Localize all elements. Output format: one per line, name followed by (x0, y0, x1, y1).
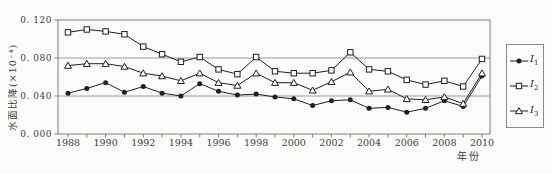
marker-I2 (84, 27, 89, 32)
x-tick-label: 2008 (428, 137, 460, 148)
marker-I3 (215, 79, 222, 85)
marker-I3 (479, 70, 486, 76)
marker-I1 (216, 89, 221, 94)
marker-I3 (328, 78, 335, 84)
marker-I2 (197, 54, 202, 59)
marker-I3 (196, 70, 203, 76)
marker-I2 (216, 67, 221, 72)
marker-I2 (442, 78, 447, 83)
x-tick-label: 1990 (90, 137, 122, 148)
marker-I1 (103, 80, 108, 85)
marker-I2 (460, 84, 465, 89)
x-tick-label: 1996 (203, 137, 235, 148)
marker-I1 (160, 91, 165, 96)
marker-I1 (254, 92, 259, 97)
marker-I1 (310, 103, 315, 108)
marker-I1 (385, 105, 390, 110)
marker-I1 (423, 106, 428, 111)
marker-I1 (291, 96, 296, 101)
marker-I2 (272, 69, 277, 74)
legend: I1I2I3 (506, 44, 544, 128)
open-triangle-icon (510, 106, 528, 116)
y-tick-label: 0. 040 (16, 91, 52, 101)
legend-label-I2: I2 (530, 79, 538, 92)
marker-I2 (291, 71, 296, 76)
x-tick-label: 2000 (278, 137, 310, 148)
x-tick-label: 2004 (353, 137, 385, 148)
marker-I3 (309, 87, 316, 93)
y-tick-label: 0. 120 (16, 15, 52, 25)
legend-entry-I3: I3 (510, 105, 543, 118)
marker-I3 (441, 94, 448, 100)
x-tick-label: 2006 (391, 137, 423, 148)
legend-label-I1: I1 (530, 54, 538, 67)
marker-I1 (235, 93, 240, 98)
open-square-icon (510, 81, 528, 91)
marker-I1 (178, 94, 183, 99)
marker-I2 (423, 82, 428, 87)
marker-I1 (122, 90, 127, 95)
x-axis-title: 年份 (452, 148, 486, 163)
marker-I3 (384, 86, 391, 92)
marker-I2 (310, 71, 315, 76)
marker-I1 (197, 81, 202, 86)
x-tick-label: 1994 (165, 137, 197, 148)
x-tick-label: 1998 (240, 137, 272, 148)
marker-I2 (404, 77, 409, 82)
marker-I2 (348, 50, 353, 55)
marker-I2 (122, 32, 127, 37)
y-tick-label: 0. 080 (16, 53, 52, 63)
marker-I2 (479, 56, 484, 61)
filled-circle-icon (510, 56, 528, 66)
marker-I1 (404, 110, 409, 115)
marker-I2 (141, 44, 146, 49)
x-tick-label: 2010 (466, 137, 498, 148)
marker-I3 (347, 69, 354, 75)
marker-I2 (253, 54, 258, 59)
marker-I1 (66, 91, 71, 96)
marker-I1 (273, 94, 278, 99)
marker-I2 (178, 59, 183, 64)
y-tick-label: 0. 000 (16, 129, 52, 139)
marker-I2 (366, 67, 371, 72)
x-tick-label: 1988 (52, 137, 84, 148)
x-tick-label: 2002 (315, 137, 347, 148)
legend-entry-I2: I2 (510, 79, 543, 92)
x-tick-label: 1992 (127, 137, 159, 148)
marker-I2 (235, 71, 240, 76)
marker-I2 (385, 69, 390, 74)
marker-I3 (253, 70, 260, 76)
marker-I1 (329, 98, 334, 103)
marker-I1 (141, 84, 146, 89)
marker-I3 (140, 70, 147, 76)
marker-I2 (103, 29, 108, 34)
marker-I2 (329, 68, 334, 73)
marker-I1 (84, 86, 89, 91)
marker-I1 (348, 97, 353, 102)
legend-label-I3: I3 (530, 105, 538, 118)
marker-I2 (159, 52, 164, 57)
marker-I1 (367, 106, 372, 111)
legend-entry-I1: I1 (510, 54, 543, 67)
line-chart-figure: 水面比降(×10⁻⁴) 年份 0. 0000. 0400. 0800. 1201… (0, 0, 552, 174)
marker-I2 (65, 30, 70, 35)
